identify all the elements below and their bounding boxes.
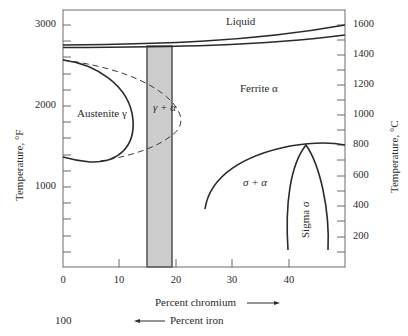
region-label-sigma-alpha: σ + α — [243, 176, 267, 188]
highlight-band — [147, 46, 172, 267]
region-label-liquid: Liquid — [226, 15, 255, 27]
chromium-arrow-icon — [247, 301, 280, 305]
region-label-austenite: Austenite γ — [77, 107, 127, 119]
x2-axis-title: Percent iron — [170, 314, 223, 326]
y-right-tick: 1400 — [353, 48, 374, 59]
y-right-tick: 1600 — [353, 18, 374, 29]
y-left-tick: 3000 — [16, 18, 56, 29]
y-left-axis-title: Temperature, °F — [13, 130, 25, 201]
y-right-tick: 1200 — [353, 78, 374, 89]
x-tick: 0 — [51, 274, 75, 285]
y-right-tick: 1000 — [353, 108, 374, 119]
y-right-axis-title: Temperature, °C — [388, 120, 400, 193]
y-right-tick: 200 — [353, 230, 369, 241]
iron-arrow-icon — [134, 319, 165, 323]
y-left-tick: 2000 — [16, 99, 56, 110]
region-label-ferrite: Ferrite α — [240, 82, 278, 94]
right-axis-ticks — [337, 25, 345, 252]
y-right-tick: 400 — [353, 199, 369, 210]
x-tick: 30 — [220, 274, 244, 285]
left-axis-ticks — [63, 25, 71, 252]
phase-diagram-plot — [0, 0, 408, 336]
x-tick: 40 — [277, 274, 301, 285]
x-tick: 10 — [107, 274, 131, 285]
region-label-sigma: Sigma σ — [299, 201, 311, 238]
liquidus-curve — [63, 25, 345, 45]
y-right-tick: 800 — [353, 138, 369, 149]
x-axis-title: Percent chromium — [155, 296, 236, 308]
x-tick: 20 — [164, 274, 188, 285]
bottom-axis-ticks — [119, 259, 289, 267]
region-label-gamma-alpha: γ + α — [153, 101, 176, 113]
x2-axis-tick: 100 — [55, 314, 72, 326]
y-right-tick: 600 — [353, 169, 369, 180]
